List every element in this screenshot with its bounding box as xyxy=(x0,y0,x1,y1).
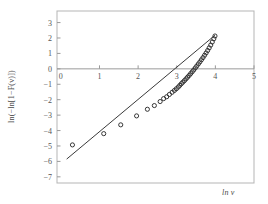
data-point xyxy=(135,114,139,118)
x-tick-label-1: 1 xyxy=(97,72,101,81)
y-tick-label-−1: −1 xyxy=(43,80,52,89)
data-point xyxy=(119,123,123,127)
data-point xyxy=(70,143,74,147)
y-tick-label-2: 2 xyxy=(48,34,52,43)
y-tick-label-−2: −2 xyxy=(43,96,52,105)
y-tick-label-−3: −3 xyxy=(43,111,52,120)
y-axis-label: ln(−ln[1−F(v)]) xyxy=(7,42,16,152)
y-tick-label-−6: −6 xyxy=(43,157,52,166)
plot-frame xyxy=(57,11,254,183)
x-tick-label-3: 3 xyxy=(175,72,179,81)
data-series-0 xyxy=(70,34,217,147)
data-point xyxy=(145,107,149,111)
plot-canvas: 0123453210−1−2−3−4−5−6−7 xyxy=(0,0,268,204)
x-tick-label-2: 2 xyxy=(136,72,140,81)
data-point xyxy=(152,103,156,107)
x-tick-label-4: 4 xyxy=(213,72,217,81)
y-tick-label-−7: −7 xyxy=(43,173,52,182)
fit-line xyxy=(67,35,215,159)
x-axis-label: ln v xyxy=(222,188,235,197)
data-point xyxy=(102,132,106,136)
y-tick-label-3: 3 xyxy=(48,19,52,28)
y-tick-label-−4: −4 xyxy=(43,127,52,136)
x-tick-label-5: 5 xyxy=(252,72,256,81)
y-tick-label-0: 0 xyxy=(48,65,52,74)
x-tick-label-0: 0 xyxy=(59,72,63,81)
y-tick-label-−5: −5 xyxy=(43,142,52,151)
y-tick-label-1: 1 xyxy=(48,49,52,58)
weibull-probability-plot: 0123453210−1−2−3−4−5−6−7 ln(−ln[1−F(v)])… xyxy=(0,0,268,204)
